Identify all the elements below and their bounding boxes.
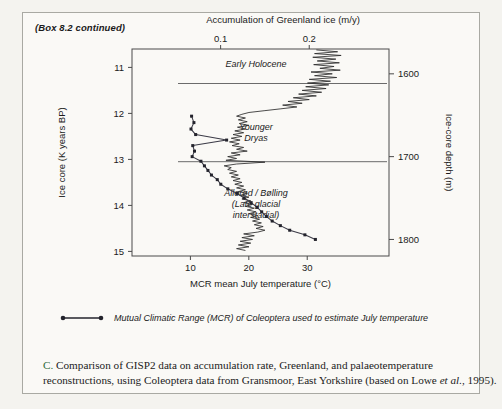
caption-line-2: reconstructions, using Coleoptera data f…: [43, 374, 409, 386]
mcr-data-point: [271, 220, 274, 223]
bottom-axis-tick-label: 20: [244, 262, 255, 273]
mcr-data-point: [288, 229, 291, 232]
mcr-data-point: [225, 139, 228, 142]
legend-entry-label: Mutual Climatic Range (MCR) of Coleopter…: [114, 313, 428, 323]
caption-line-1: Comparison of GISP2 data on accumulation…: [53, 359, 433, 371]
plot-frame: [132, 49, 389, 256]
caption-label: C.: [43, 359, 53, 371]
mcr-data-point: [191, 155, 194, 158]
mcr-data-point: [190, 115, 193, 118]
mcr-data-point: [255, 206, 258, 209]
plot-annotation: Early Holocene: [225, 59, 286, 69]
figure-caption: C. Comparison of GISP2 data on accumulat…: [43, 358, 502, 388]
mcr-data-point: [314, 238, 317, 241]
mcr-data-point: [191, 144, 194, 147]
left-axis-tick-label: 13: [113, 154, 124, 165]
plot-annotation: Allerød / Bølling: [223, 188, 288, 198]
mcr-data-point: [303, 233, 306, 236]
right-axis-tick-label: 1800: [398, 234, 419, 245]
bottom-axis-tick-label: 10: [185, 262, 196, 273]
left-axis-tick-label: 15: [113, 246, 124, 257]
mcr-data-point: [243, 197, 246, 200]
caption-line-3-italic: et al.: [440, 374, 462, 386]
mcr-data-point: [189, 128, 192, 131]
mcr-data-point: [226, 187, 229, 190]
mcr-data-point: [216, 178, 219, 181]
mcr-data-point: [236, 192, 239, 195]
mcr-data-point: [250, 201, 253, 204]
mcr-data-point: [219, 183, 222, 186]
top-axis-tick-label: 0.1: [214, 33, 227, 44]
chart-plot: 0.10.2102030MCR mean July temperature (°…: [23, 13, 481, 395]
mcr-data-point: [203, 164, 206, 167]
caption-line-3-post: , 1995).: [462, 374, 497, 386]
top-axis-tick-label: 0.2: [303, 33, 316, 44]
right-axis-label: Ice-core depth (m): [444, 114, 455, 192]
left-axis-tick-label: 12: [113, 108, 124, 119]
left-axis-tick-label: 14: [113, 200, 124, 211]
mcr-data-point: [279, 224, 282, 227]
mcr-data-point: [206, 169, 209, 172]
mcr-data-point: [194, 133, 197, 136]
mcr-data-point: [265, 215, 268, 218]
right-axis-tick-label: 1600: [398, 68, 419, 79]
mcr-data-point: [199, 160, 202, 163]
mcr-data-point: [260, 210, 263, 213]
legend-line-swatch: [59, 313, 105, 323]
bottom-axis-label: MCR mean July temperature (°C): [190, 278, 331, 289]
plot-annotation: Dryas: [244, 133, 268, 143]
mcr-data-point: [192, 121, 195, 124]
right-axis-tick-label: 1700: [398, 151, 419, 162]
legend: Mutual Climatic Range (MCR) of Coleopter…: [59, 313, 428, 323]
mcr-data-point: [193, 150, 196, 153]
left-axis-label: Ice core (K years BP): [56, 107, 67, 197]
figure-box: (Box 8.2 continued) Accumulation of Gree…: [22, 12, 480, 394]
mcr-data-point: [210, 174, 213, 177]
caption-line-3-pre: Lowe: [411, 374, 439, 386]
bottom-axis-tick-label: 30: [302, 262, 313, 273]
left-axis-tick-label: 11: [114, 62, 124, 73]
series-accumulation: [224, 50, 341, 251]
